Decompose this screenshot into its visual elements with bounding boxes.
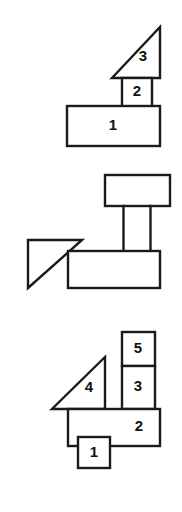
figure-2-base-bar bbox=[68, 251, 160, 288]
figure-1-part-3-triangle bbox=[112, 27, 160, 78]
figure-3-label-2: 2 bbox=[135, 417, 143, 434]
figure-3-label-1: 1 bbox=[90, 443, 98, 460]
figure-3-label-5: 5 bbox=[134, 339, 142, 356]
figure-1-group: 3 2 1 bbox=[0, 0, 182, 170]
figure-3-label-3: 3 bbox=[134, 377, 142, 394]
figure-3-svg: 5 3 4 2 1 bbox=[0, 300, 182, 512]
figure-1-label-1: 1 bbox=[109, 116, 117, 133]
figure-3-group: 5 3 4 2 1 bbox=[0, 300, 182, 512]
figure-sheet: 3 2 1 bbox=[0, 0, 182, 512]
figure-1-label-3: 3 bbox=[139, 47, 147, 64]
figure-1-svg: 3 2 1 bbox=[0, 0, 182, 170]
figure-1-label-2: 2 bbox=[133, 82, 141, 99]
figure-3-label-4: 4 bbox=[85, 378, 94, 395]
figure-2-group bbox=[0, 170, 182, 300]
figure-3-part-4-triangle bbox=[52, 357, 105, 409]
figure-2-top-bar bbox=[105, 175, 170, 206]
figure-2-svg bbox=[0, 170, 182, 300]
